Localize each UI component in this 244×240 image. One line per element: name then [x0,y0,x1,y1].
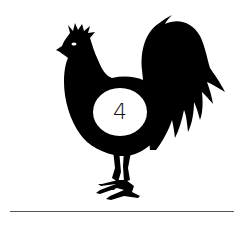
ground-line [10,211,234,212]
rooster-eye [72,42,77,45]
badge-number: 4 [104,96,136,128]
rooster-feet [96,180,140,200]
